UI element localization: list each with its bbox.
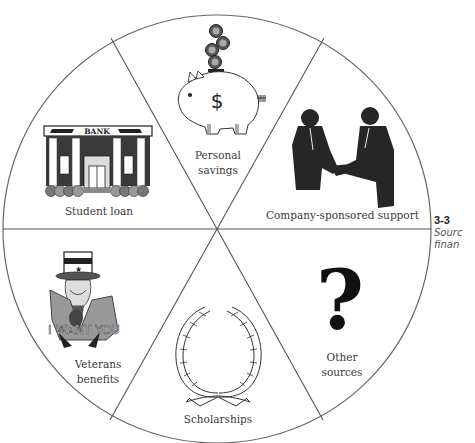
figure-number: 3-3 bbox=[434, 214, 462, 227]
label-line: savings bbox=[190, 163, 246, 178]
uncle-sam-slogan: I WANT YOU bbox=[48, 323, 120, 337]
label-line: benefits bbox=[68, 372, 128, 387]
figure-caption: 3-3 Sourc finan bbox=[434, 214, 462, 251]
label-line: Veterans bbox=[68, 357, 128, 372]
figure-caption-line: finan bbox=[434, 239, 462, 251]
label-veterans-benefits: Veterans benefits bbox=[68, 357, 128, 387]
handshake-icon bbox=[292, 107, 394, 208]
coin-icons bbox=[206, 25, 230, 69]
label-line: sources bbox=[314, 365, 370, 380]
label-other-sources: Other sources bbox=[314, 350, 370, 380]
label-company-sponsored-support: Company-sponsored support bbox=[266, 208, 411, 223]
laurel-wreath-icon bbox=[176, 307, 261, 406]
piggy-bank-icon: $ bbox=[178, 25, 266, 135]
dollar-sign: $ bbox=[211, 89, 224, 113]
label-line: Other bbox=[314, 350, 370, 365]
label-personal-savings: Personal savings bbox=[190, 148, 246, 178]
svg-text:?: ? bbox=[316, 252, 364, 348]
figure-caption-line: Sourc bbox=[434, 227, 462, 239]
bank-building-icon: BANK bbox=[44, 126, 152, 197]
label-student-loan: Student loan bbox=[54, 204, 144, 219]
label-scholarships: Scholarships bbox=[178, 412, 258, 427]
label-line: Personal bbox=[190, 148, 246, 163]
question-mark-icon: ? bbox=[316, 252, 364, 348]
funding-sources-diagram: $ BANK bbox=[0, 0, 475, 443]
uncle-sam-icon: ★ I WANT YOU bbox=[48, 252, 120, 348]
bank-sign-text: BANK bbox=[84, 127, 110, 136]
